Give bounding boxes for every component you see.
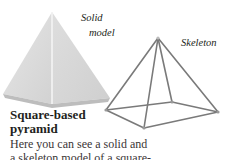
heading-line1: Square-based <box>10 108 150 122</box>
solid-model-label-line2: model <box>89 28 115 39</box>
body-line2: a skeleton model of a square- <box>10 151 225 160</box>
skeleton-label: Skeleton <box>181 38 217 49</box>
solid-model-label-line1: Solid <box>81 13 103 24</box>
heading-line2: pyramid <box>10 122 150 136</box>
pyramid-illustration <box>0 0 227 160</box>
body-paragraph: Here you can see a solid and a skeleton … <box>10 137 225 160</box>
section-heading: Square-based pyramid <box>10 108 150 136</box>
body-line1: Here you can see a solid and <box>10 137 225 151</box>
